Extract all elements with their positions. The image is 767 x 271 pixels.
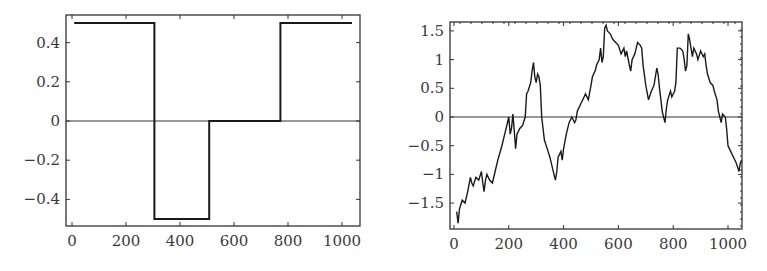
figure-canvas: 020040060080010000.40.20−0.2−0.4 0200400…	[0, 0, 767, 271]
x-tick-label: 0	[67, 232, 77, 250]
y-tick-label: −1	[422, 165, 444, 183]
y-tick-label: −0.2	[24, 151, 60, 169]
x-tick-label: 400	[166, 232, 195, 250]
y-tick-label: 1.5	[420, 22, 444, 40]
y-tick-label: 0.2	[36, 73, 60, 91]
y-tick-label: 0.5	[420, 79, 444, 97]
x-tick-label: 200	[112, 232, 141, 250]
x-tick-label: 800	[274, 232, 303, 250]
y-tick-label: −1.5	[408, 194, 444, 212]
x-tick-label: 1000	[323, 232, 361, 250]
y-tick-label: 1	[434, 51, 444, 69]
right-chart-random-walk: 020040060080010001.510.50−0.5−1−1.5	[408, 22, 748, 253]
x-tick-label: 200	[494, 235, 523, 253]
y-tick-label: −0.5	[408, 137, 444, 155]
left-chart-step-signal: 020040060080010000.40.20−0.2−0.4	[24, 15, 362, 250]
data-series-line	[457, 25, 742, 223]
y-tick-label: −0.4	[24, 190, 60, 208]
y-tick-label: 0	[50, 112, 60, 130]
x-tick-label: 600	[220, 232, 249, 250]
x-tick-label: 600	[604, 235, 633, 253]
x-tick-label: 800	[659, 235, 688, 253]
y-tick-label: 0	[434, 108, 444, 126]
x-tick-label: 400	[549, 235, 578, 253]
x-tick-label: 0	[449, 235, 459, 253]
plot-frame	[450, 22, 742, 229]
y-tick-label: 0.4	[36, 34, 60, 52]
x-tick-label: 1000	[709, 235, 747, 253]
